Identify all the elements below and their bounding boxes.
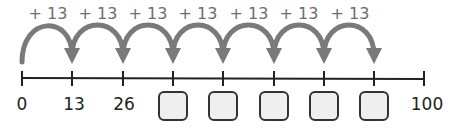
answer-box-2[interactable] [208,91,238,121]
jump-label: + 13 [179,4,218,23]
jump-label: + 13 [280,4,319,23]
arrow-heads [64,48,382,64]
jump-label: + 13 [29,4,68,23]
answer-box-3[interactable] [259,91,289,121]
answer-box-4[interactable] [309,91,339,121]
answer-box-5[interactable] [359,91,389,121]
label-end: 100 [411,94,443,114]
answer-box-1[interactable] [158,91,188,121]
axis [22,71,424,86]
label-26: 26 [113,94,135,114]
label-start: 0 [17,94,28,114]
jump-label: + 13 [129,4,168,23]
jump-label: + 13 [230,4,269,23]
label-13: 13 [63,94,85,114]
jump-label: + 13 [331,4,370,23]
jump-label: + 13 [79,4,118,23]
